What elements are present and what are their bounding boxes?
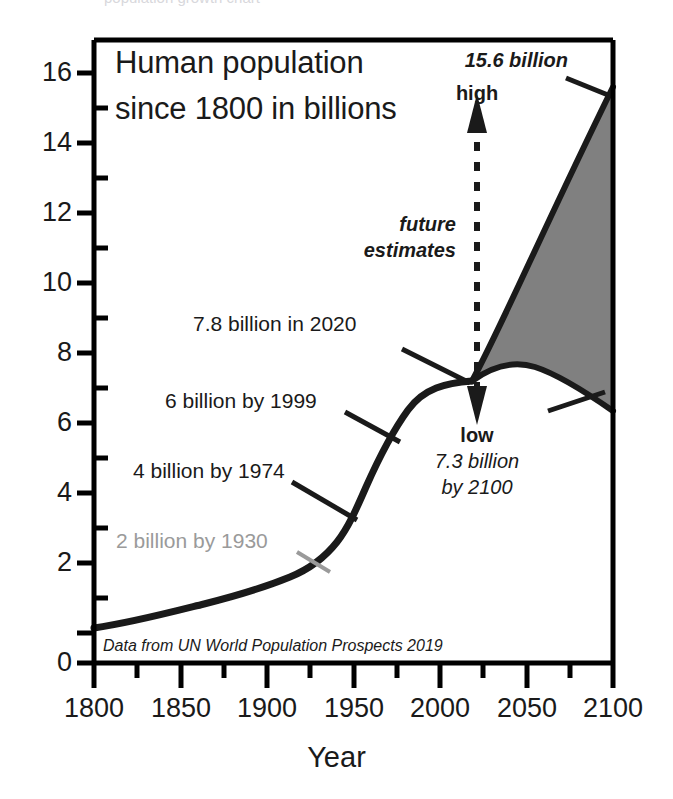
high-value-label: 15.6 billion bbox=[400, 50, 568, 72]
chart-title-line-1: Human population bbox=[115, 46, 363, 79]
y-tick-label-16: 16 bbox=[16, 58, 72, 87]
source-note: Data from UN World Population Prospects … bbox=[103, 637, 443, 654]
x-axis-major-ticks bbox=[94, 663, 613, 688]
y-tick-label-8: 8 bbox=[16, 338, 72, 367]
low-label: low bbox=[425, 425, 529, 447]
y-axis-major-ticks bbox=[77, 73, 94, 663]
x-tick-label-2100: 2100 bbox=[558, 694, 668, 723]
annotation-7-8-billion-2020: 7.8 billion in 2020 bbox=[193, 313, 356, 336]
y-tick-label-10: 10 bbox=[16, 268, 72, 297]
future-estimates-line-1: future bbox=[306, 214, 456, 236]
high-label: high bbox=[410, 83, 544, 105]
annotation-4-billion-1974: 4 billion by 1974 bbox=[133, 460, 285, 483]
y-tick-label-4: 4 bbox=[16, 478, 72, 507]
y-tick-label-14: 14 bbox=[16, 128, 72, 157]
chart-title-line-2: since 1800 in billions bbox=[115, 92, 397, 125]
y-tick-label-6: 6 bbox=[16, 408, 72, 437]
y-tick-label-0: 0 bbox=[16, 648, 72, 677]
population-chart-figure: population growth chart bbox=[0, 0, 673, 799]
y-tick-label-2: 2 bbox=[16, 548, 72, 577]
future-estimates-line-2: estimates bbox=[306, 240, 456, 262]
annotation-2-billion-1930: 2 billion by 1930 bbox=[116, 530, 268, 553]
low-value-line-1: 7.3 billion bbox=[415, 451, 539, 473]
x-axis-title: Year bbox=[0, 742, 673, 773]
annotation-6-billion-1999: 6 billion by 1999 bbox=[165, 390, 317, 413]
low-value-line-2: by 2100 bbox=[415, 477, 539, 499]
y-tick-label-12: 12 bbox=[16, 198, 72, 227]
